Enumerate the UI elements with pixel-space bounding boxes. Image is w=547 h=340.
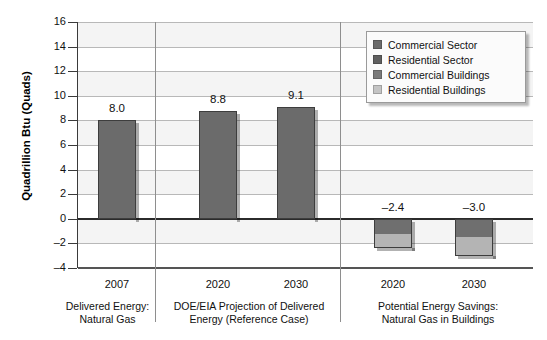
y-axis-tick xyxy=(68,194,77,195)
y-axis-tick-label: 0 xyxy=(36,212,66,224)
legend-item[interactable]: Commercial Buildings xyxy=(373,67,518,82)
x-axis-tick-label: 2020 xyxy=(358,278,428,290)
group-caption: DOE/EIA Projection of DeliveredEnergy (R… xyxy=(160,300,338,326)
group-caption-line: DOE/EIA Projection of Delivered xyxy=(160,300,338,313)
chart-bar xyxy=(455,219,493,256)
y-axis-tick xyxy=(68,47,77,48)
y-axis-tick xyxy=(68,22,77,23)
chart-bar xyxy=(277,107,315,219)
group-caption: Potential Energy Savings:Natural Gas in … xyxy=(348,300,528,326)
bar-value-label: 9.1 xyxy=(266,89,326,101)
bar-shadow xyxy=(412,222,415,252)
bar-outline xyxy=(374,219,412,249)
y-axis-tick xyxy=(68,145,77,146)
legend-label: Residential Sector xyxy=(388,54,473,66)
y-axis-tick-label: 6 xyxy=(36,138,66,150)
legend-item[interactable]: Residential Buildings xyxy=(373,82,518,97)
y-axis-tick-label: 4 xyxy=(36,163,66,175)
x-axis-tick-label: 2030 xyxy=(439,278,509,290)
legend-swatch-icon xyxy=(373,70,382,79)
y-axis-tick-label: 14 xyxy=(36,40,66,52)
group-caption-line: Energy (Reference Case) xyxy=(160,313,338,326)
bar-outline xyxy=(199,111,237,219)
legend-item[interactable]: Residential Sector xyxy=(373,52,518,67)
bar-value-label: –3.0 xyxy=(444,201,504,213)
chart-legend: Commercial SectorResidential SectorComme… xyxy=(366,31,526,103)
chart-figure: Quadrillion Btu (Quads) 1614121086420–2–… xyxy=(0,0,547,340)
y-axis-tick xyxy=(68,219,77,220)
y-axis-tick xyxy=(68,268,77,269)
bar-shadow xyxy=(237,114,240,222)
bar-value-label: 8.0 xyxy=(87,102,147,114)
legend-label: Residential Buildings xyxy=(388,84,485,96)
bar-shadow xyxy=(136,123,139,221)
group-caption-line: Potential Energy Savings: xyxy=(348,300,528,313)
y-axis-tick-label: 8 xyxy=(36,113,66,125)
group-caption: Delivered Energy:Natural Gas xyxy=(60,300,155,326)
x-axis-tick-label: 2020 xyxy=(183,278,253,290)
y-axis-tick-label: 2 xyxy=(36,187,66,199)
group-caption-line: Delivered Energy: xyxy=(60,300,155,313)
group-caption-line: Natural Gas xyxy=(60,313,155,326)
bar-outline xyxy=(98,120,136,218)
gridline xyxy=(78,22,533,23)
bar-outline xyxy=(455,219,493,256)
y-axis-tick-label: –2 xyxy=(36,236,66,248)
legend-swatch-icon xyxy=(373,55,382,64)
bar-shadow xyxy=(493,222,496,259)
legend-item[interactable]: Commercial Sector xyxy=(373,37,518,52)
gridline xyxy=(78,267,533,269)
legend-label: Commercial Sector xyxy=(388,39,477,51)
y-axis-tick xyxy=(68,96,77,97)
chart-bar xyxy=(98,120,136,218)
y-axis-tick-label: 16 xyxy=(36,15,66,27)
x-axis-tick-label: 2030 xyxy=(261,278,331,290)
y-axis-title: Quadrillion Btu (Quads) xyxy=(20,26,32,246)
bar-outline xyxy=(277,107,315,219)
legend-swatch-icon xyxy=(373,40,382,49)
bar-shadow-bottom xyxy=(377,248,415,251)
x-axis-tick-label: 2007 xyxy=(82,278,152,290)
y-axis-tick-label: –4 xyxy=(36,261,66,273)
y-axis-tick-label: 10 xyxy=(36,89,66,101)
group-caption-line: Natural Gas in Buildings xyxy=(348,313,528,326)
bar-shadow xyxy=(315,110,318,222)
legend-label: Commercial Buildings xyxy=(388,69,490,81)
legend-swatch-icon xyxy=(373,85,382,94)
group-separator xyxy=(155,22,156,322)
y-axis-tick xyxy=(68,170,77,171)
bar-shadow-bottom xyxy=(458,256,496,259)
chart-bar xyxy=(199,111,237,219)
y-axis-tick xyxy=(68,243,77,244)
y-axis-tick xyxy=(68,71,77,72)
y-axis-tick xyxy=(68,120,77,121)
y-axis-tick-label: 12 xyxy=(36,64,66,76)
chart-bar xyxy=(374,219,412,249)
bar-value-label: 8.8 xyxy=(188,93,248,105)
group-separator xyxy=(340,22,341,322)
bar-value-label: –2.4 xyxy=(363,201,423,213)
